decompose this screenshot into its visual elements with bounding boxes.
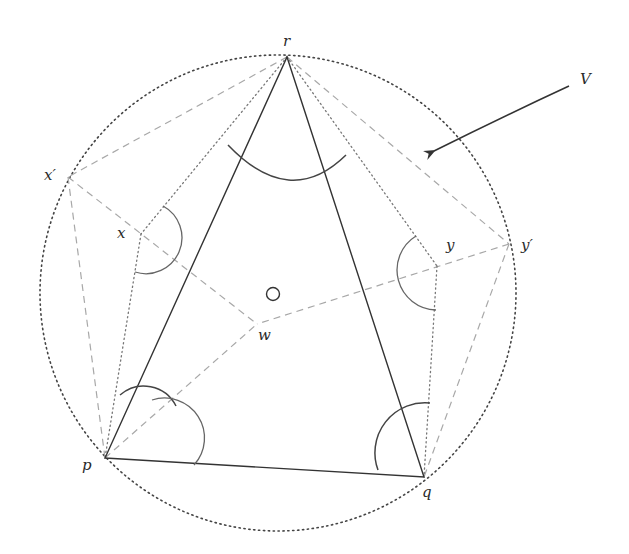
label-r: r: [283, 32, 291, 50]
triangle-pqr: [105, 57, 424, 477]
angle-arc-x: [135, 206, 182, 274]
label-w: w: [258, 326, 271, 344]
arrow-V: [434, 86, 569, 151]
angle-arc-p-upper: [120, 386, 176, 406]
dashed-construction-lines: [68, 57, 509, 477]
angle-arc-p-lower: [152, 398, 204, 465]
label-V: V: [580, 70, 593, 88]
label-x: x: [117, 224, 126, 242]
label-y: y: [445, 236, 455, 254]
center-point-O: [267, 288, 280, 301]
label-p: p: [82, 456, 92, 474]
label-x-prime: x′: [44, 166, 56, 184]
angle-arcs: [120, 145, 436, 470]
circumcircle: [40, 55, 516, 531]
geometry-diagram: r p q x′ x y y′ w V: [0, 0, 629, 554]
label-q: q: [422, 483, 432, 501]
angle-arc-r: [228, 145, 346, 180]
label-y-prime: y′: [520, 236, 533, 254]
